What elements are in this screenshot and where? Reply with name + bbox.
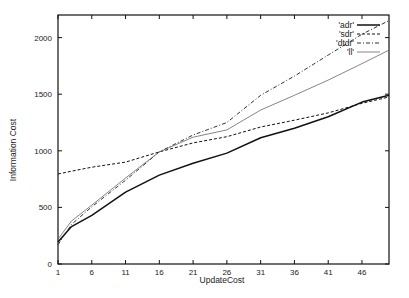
y-axis-ticks: 0500100015002000 xyxy=(34,34,389,269)
series-lines xyxy=(58,21,389,245)
legend-label: 'll' xyxy=(347,47,354,57)
line-chart: 0500100015002000 161116212631364146 'adr… xyxy=(0,0,409,298)
plot-border xyxy=(58,15,389,264)
x-axis-label: UpdateCost xyxy=(200,275,246,285)
x-tick-label: 21 xyxy=(189,268,198,277)
x-tick-label: 41 xyxy=(324,268,333,277)
x-tick-label: 46 xyxy=(358,268,367,277)
y-tick-label: 0 xyxy=(48,260,53,269)
x-tick-label: 16 xyxy=(155,268,164,277)
x-tick-label: 11 xyxy=(121,268,130,277)
x-axis-ticks: 161116212631364146 xyxy=(56,15,367,277)
y-tick-label: 1000 xyxy=(34,147,52,156)
plot-frame xyxy=(58,15,389,264)
y-tick-label: 2000 xyxy=(34,34,52,43)
x-tick-label: 31 xyxy=(256,268,265,277)
series-line-ll xyxy=(58,50,389,239)
series-line-adr xyxy=(58,95,389,242)
legend: 'adr''sdr''dtdr''ll' xyxy=(336,20,380,57)
y-tick-label: 1500 xyxy=(34,90,52,99)
series-line-sdr xyxy=(58,97,389,174)
y-axis-label: Information Cost xyxy=(8,118,18,181)
y-tick-label: 500 xyxy=(39,203,53,212)
x-tick-label: 1 xyxy=(56,268,61,277)
x-tick-label: 36 xyxy=(290,268,299,277)
x-tick-label: 6 xyxy=(90,268,95,277)
series-line-dtdr xyxy=(58,21,389,245)
